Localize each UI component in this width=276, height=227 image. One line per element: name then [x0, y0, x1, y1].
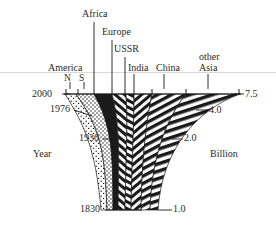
- ytick-1830: 1830: [80, 203, 100, 214]
- legend-label-asia: Asia: [199, 62, 217, 73]
- xtick-10: 1.0: [173, 203, 186, 214]
- legend-label-europe: Europe: [102, 26, 131, 37]
- legend-label-other: other: [199, 51, 220, 62]
- legend-label-ussr: USSR: [114, 43, 139, 54]
- chart-canvas: [0, 0, 276, 227]
- xtick-40: 4.0: [209, 104, 222, 115]
- xtick-20: 2.0: [184, 132, 197, 143]
- legend-label-china: China: [156, 62, 180, 73]
- axis-label-billion: Billion: [210, 148, 238, 159]
- ytick-2000: 2000: [32, 88, 52, 99]
- xtick-75: 7.5: [245, 88, 258, 99]
- legend-label-india: India: [128, 62, 149, 73]
- ytick-1930: 1930: [79, 132, 99, 143]
- legend-label-africa: Africa: [82, 8, 108, 19]
- legend-label-america-n: N: [64, 73, 71, 84]
- legend-label-america: America: [48, 62, 82, 73]
- legend-label-america-s: S: [79, 73, 84, 84]
- ytick-1976: 1976: [50, 103, 70, 114]
- top-axis: [64, 89, 241, 94]
- axis-label-year: Year: [33, 148, 51, 159]
- population-funnel-chart: Africa Europe USSR America N S India Chi…: [0, 0, 276, 227]
- leader-lines: [70, 22, 208, 89]
